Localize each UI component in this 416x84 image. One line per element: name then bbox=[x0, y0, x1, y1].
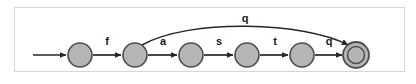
state-q1[interactable] bbox=[123, 43, 147, 67]
state-q5-accepting[interactable] bbox=[343, 42, 369, 68]
state-q4[interactable] bbox=[290, 43, 314, 67]
transition-label-q: q bbox=[326, 35, 333, 47]
state-q2[interactable] bbox=[179, 43, 203, 67]
transition-label-a: a bbox=[160, 35, 167, 47]
transition-label-q-arc: q bbox=[242, 12, 249, 24]
transition-label-t: t bbox=[273, 35, 277, 47]
state-q0[interactable] bbox=[68, 43, 92, 67]
automaton-canvas: q f a s t q bbox=[0, 0, 416, 84]
automaton-figure: q f a s t q bbox=[0, 0, 416, 84]
transition-label-s: s bbox=[216, 35, 222, 47]
transition-label-f: f bbox=[105, 35, 109, 47]
state-q3[interactable] bbox=[235, 43, 259, 67]
